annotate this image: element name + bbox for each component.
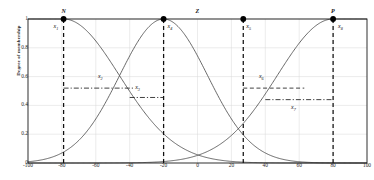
membership-function-chart: Degree of membership 00.20.40.60.81 -100… (0, 0, 374, 180)
series-label-N: N (62, 8, 66, 14)
marker-label-x8: x8 (338, 23, 343, 31)
marker-label-x1: x1 (54, 23, 59, 31)
reference-label-x2: x2 (98, 73, 103, 81)
series-label-P: P (331, 8, 335, 14)
reference-label-x6: x6 (259, 73, 264, 81)
series-label-Z: Z (196, 8, 200, 14)
reference-label-x7: x7 (291, 104, 296, 112)
reference-label-x3: x3 (135, 84, 140, 92)
data-point-x8[interactable] (330, 16, 336, 22)
data-point-x5[interactable] (240, 16, 246, 22)
data-point-x1[interactable] (61, 16, 67, 22)
marker-label-x4: x4 (168, 23, 173, 31)
marker-label-x5: x5 (246, 23, 251, 31)
data-point-x4[interactable] (161, 16, 167, 22)
